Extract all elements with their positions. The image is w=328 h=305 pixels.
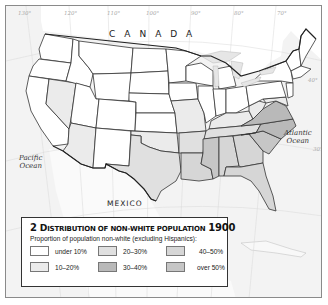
atlantic-ocean-label: Atlantic Ocean — [284, 129, 312, 145]
mexico-label: MEXICO — [107, 199, 143, 208]
legend-title-text: ISTRIBUTION OF NON-WHITE POPULATION — [47, 225, 205, 233]
canada-label: CANADA — [109, 29, 201, 39]
legend-item-40-50: 40–50% — [166, 245, 223, 257]
legend-number: 2 — [30, 222, 37, 233]
legend-grid: under 10% 10–20% 20–30% 30–40% 40–50% ov… — [30, 245, 219, 277]
legend-swatch — [166, 262, 185, 272]
longitude-120-label: 120° — [64, 10, 77, 16]
legend-swatch — [166, 246, 185, 256]
legend-item-30-40: 30–40% — [98, 261, 147, 273]
legend-item-20-30: 20–30% — [98, 245, 147, 257]
legend-item-over-50: over 50% — [166, 261, 225, 273]
legend-item-10-20: 10–20% — [30, 261, 79, 273]
legend-item-under-10: under 10% — [30, 245, 87, 257]
map-legend: 2 DISTRIBUTION OF NON-WHITE POPULATION 1… — [21, 217, 228, 287]
longitude-90-label: 90° — [191, 10, 201, 16]
legend-label: 10–20% — [55, 264, 79, 271]
state-wy — [93, 73, 131, 101]
legend-label: over 50% — [197, 264, 225, 271]
state-nd — [131, 48, 168, 73]
legend-swatch — [98, 246, 117, 256]
state-ia — [169, 83, 198, 101]
latitude-30-label: 30° — [313, 146, 322, 152]
longitude-80-label: 80° — [234, 10, 244, 16]
legend-label: 30–40% — [123, 264, 147, 271]
state-nm — [93, 128, 131, 168]
state-ne — [129, 93, 175, 113]
legend-swatch — [30, 262, 49, 272]
legend-swatch — [30, 246, 49, 256]
legend-label: 40–50% — [199, 248, 223, 255]
longitude-70-label: 70° — [277, 10, 287, 16]
longitude-110-label: 110° — [107, 10, 120, 16]
legend-subtitle: Proportion of population non-white (excl… — [30, 235, 219, 242]
state-ar — [179, 131, 206, 153]
state-ks — [135, 113, 177, 133]
legend-label: 20–30% — [123, 248, 147, 255]
legend-label: under 10% — [55, 248, 87, 255]
pacific-ocean-label: Pacific Ocean — [19, 154, 42, 170]
legend-title: 2 DISTRIBUTION OF NON-WHITE POPULATION 1… — [30, 222, 219, 233]
state-co — [96, 99, 136, 131]
latitude-40-label: 40° — [308, 77, 318, 83]
longitude-100-label: 100° — [146, 10, 159, 16]
state-sd — [129, 71, 169, 94]
legend-year: 1900 — [208, 222, 235, 233]
legend-swatch — [98, 262, 117, 272]
longitude-130-label: 130° — [18, 10, 31, 16]
state-wa — [39, 34, 73, 63]
